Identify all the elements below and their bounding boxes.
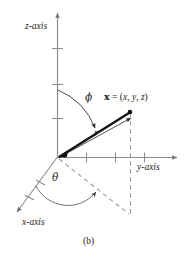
x-axis-line	[17, 158, 57, 213]
z-axis-label: z-axis	[25, 22, 47, 32]
y-axis-group	[57, 153, 177, 163]
figure-caption: (b)	[83, 237, 94, 247]
spherical-coordinates-figure: z-axis y-axis x-axis ϕ θ r x = (x, y, z)…	[0, 0, 184, 258]
point-equals-open: = (	[110, 92, 123, 102]
y-axis-label: y-axis	[137, 163, 160, 173]
radius-label: r	[94, 128, 98, 138]
theta-angle-label: θ	[52, 172, 58, 183]
point-coordinates-label: x = (x, y, z)	[104, 92, 148, 103]
phi-angle-label: ϕ	[85, 92, 92, 103]
point-marker	[128, 110, 133, 115]
z-axis-group	[52, 13, 63, 158]
x-axis-label: x-axis	[22, 218, 45, 228]
x-axis-group	[17, 158, 57, 213]
theta-arc	[36, 186, 96, 205]
point-close-paren: )	[145, 92, 148, 102]
